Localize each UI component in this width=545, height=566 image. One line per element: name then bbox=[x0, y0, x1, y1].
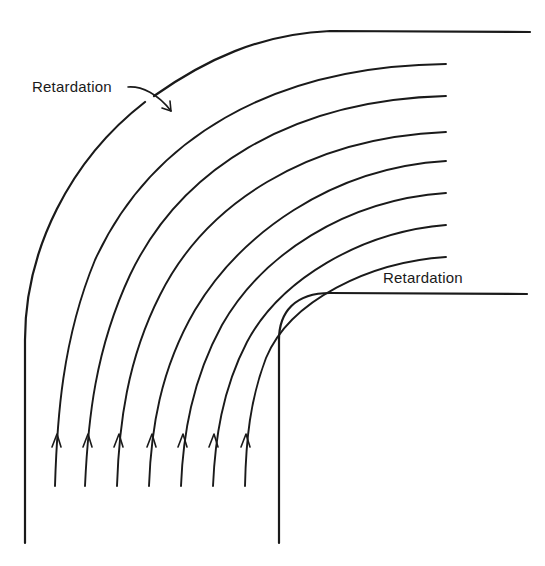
streamline-2 bbox=[85, 96, 446, 486]
outer-retardation-label: Retardation bbox=[32, 78, 112, 95]
streamline-6 bbox=[213, 225, 446, 486]
inner-wall bbox=[279, 293, 527, 543]
label-leader-arrow bbox=[128, 87, 171, 111]
outer-wall-upper bbox=[154, 31, 530, 96]
streamline-7 bbox=[245, 257, 446, 486]
inner-retardation-label: Retardation bbox=[383, 269, 463, 286]
streamline-4 bbox=[149, 161, 446, 486]
streamline-3 bbox=[117, 132, 446, 486]
streamline-5 bbox=[181, 193, 446, 486]
